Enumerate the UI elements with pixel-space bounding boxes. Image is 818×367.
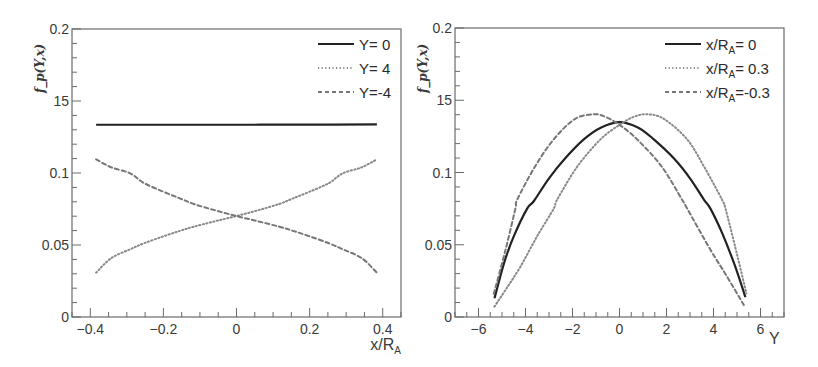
x-tick-label: 2 xyxy=(663,321,671,337)
x-tick-label: 0.2 xyxy=(300,321,320,337)
x-tick-label: −6 xyxy=(471,321,487,337)
left-plot-series xyxy=(96,124,377,272)
right-x-axis-label: Y xyxy=(769,330,780,347)
x-tick-label: 4 xyxy=(710,321,718,337)
left-x-axis-label: x/RA xyxy=(370,336,401,356)
left-legend: Y= 0Y= 4Y=-4 xyxy=(318,36,391,101)
right-legend: x/RA= 0x/RA= 0.3x/RA=-0.3 xyxy=(665,36,770,104)
series-line-dotted xyxy=(494,114,746,306)
left-plot-frame xyxy=(72,29,401,317)
x-tick-label: 6 xyxy=(757,321,765,337)
right-y-axis-label: f_p(Y,x) xyxy=(416,44,431,94)
y-tick-label: 15 xyxy=(436,92,452,108)
y-tick-label: 0.2 xyxy=(433,20,453,36)
y-tick-label: 15 xyxy=(53,93,69,109)
legend-label: x/RA= 0 xyxy=(706,36,756,56)
legend-label: Y=-4 xyxy=(359,84,391,101)
left-y-axis-label: f_p(Y,x) xyxy=(33,44,48,94)
legend-label: Y= 0 xyxy=(359,36,390,53)
x-tick-label: −4 xyxy=(518,321,534,337)
y-tick-label: 0.2 xyxy=(50,21,70,37)
series-line-dashed xyxy=(96,159,377,272)
right-plot-series xyxy=(494,114,747,306)
x-tick-label: 0.4 xyxy=(373,321,393,337)
right-axis-ticks: −6−4−2024600.050.1150.2 xyxy=(425,20,784,337)
x-tick-label: 0 xyxy=(616,321,624,337)
x-tick-label: 0 xyxy=(233,321,241,337)
x-tick-label: −2 xyxy=(565,321,581,337)
series-line-solid xyxy=(494,122,745,298)
series-line-dashed xyxy=(494,114,744,305)
x-tick-label: −0.4 xyxy=(76,321,104,337)
right-chart-panel: −6−4−2024600.050.1150.2 f_p(Y,x) Y x/RA=… xyxy=(416,20,784,347)
legend-label: x/RA=-0.3 xyxy=(706,84,770,104)
legend-label: x/RA= 0.3 xyxy=(706,60,769,80)
y-tick-label: 0.1 xyxy=(433,165,453,181)
x-tick-label: −0.2 xyxy=(150,321,178,337)
y-tick-label: 0.05 xyxy=(425,237,452,253)
y-tick-label: 0 xyxy=(61,309,69,325)
y-tick-label: 0.1 xyxy=(50,165,70,181)
legend-label: Y= 4 xyxy=(359,60,390,77)
y-tick-label: 0 xyxy=(444,309,452,325)
left-chart-panel: −0.4−0.200.20.400.050.1150.2 f_p(Y,x) x/… xyxy=(33,21,401,356)
figure: −0.4−0.200.20.400.050.1150.2 f_p(Y,x) x/… xyxy=(0,0,818,367)
series-line-dotted xyxy=(96,159,377,272)
y-tick-label: 0.05 xyxy=(42,237,69,253)
